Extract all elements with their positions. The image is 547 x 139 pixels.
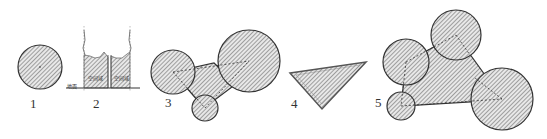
figures-svg bbox=[0, 0, 547, 139]
figure-5-label: 5 bbox=[375, 95, 382, 111]
figure-3-label: 3 bbox=[165, 95, 172, 111]
figure-2-label: 2 bbox=[93, 96, 100, 112]
figure-5-four-circles bbox=[383, 10, 533, 130]
diagram-canvas: 地面 空间域 空间域 1 2 3 4 5 bbox=[0, 0, 547, 139]
figure-1-label: 1 bbox=[30, 96, 37, 112]
figure-4-triangle bbox=[290, 62, 366, 109]
figure-2-crown-section bbox=[66, 26, 140, 92]
zone-label-right: 空间域 bbox=[114, 74, 129, 81]
figure-1-circle bbox=[18, 45, 62, 89]
ground-label: 地面 bbox=[67, 82, 77, 89]
zone-label-left: 空间域 bbox=[88, 74, 103, 81]
figure-4-label: 4 bbox=[291, 96, 298, 112]
